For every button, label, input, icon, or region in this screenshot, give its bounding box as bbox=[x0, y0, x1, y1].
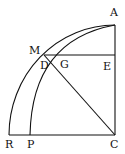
label-M: M bbox=[29, 44, 40, 57]
label-D: D bbox=[40, 59, 49, 72]
label-A: A bbox=[109, 6, 119, 19]
label-R: R bbox=[5, 138, 14, 151]
label-G: G bbox=[60, 58, 69, 71]
outer-arc-RA bbox=[9, 25, 115, 135]
geometry-diagram: A M D G E R P C bbox=[0, 0, 125, 154]
inner-arc-PA bbox=[30, 25, 115, 135]
label-E: E bbox=[103, 60, 111, 73]
label-C: C bbox=[110, 138, 118, 151]
label-P: P bbox=[27, 138, 35, 151]
